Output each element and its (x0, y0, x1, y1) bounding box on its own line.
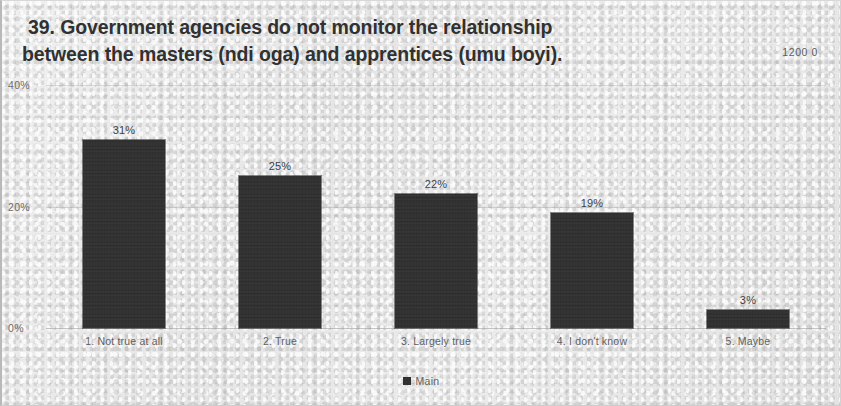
category-label: 1. Not true at all (46, 335, 202, 347)
bar-group: 25% (202, 85, 358, 329)
bar-value-label: 22% (358, 178, 514, 190)
bar-value-label: 3% (670, 294, 826, 306)
bar-group: 31% (46, 85, 202, 329)
corner-note: 1200 0 (782, 46, 818, 58)
legend-label: Main (416, 375, 440, 387)
bar[interactable] (551, 213, 633, 328)
bar[interactable] (395, 194, 477, 328)
category-label: 4. I don't know (514, 335, 670, 347)
bar-group: 3% (670, 85, 826, 329)
chart-container: 39. Government agencies do not monitor t… (0, 0, 841, 406)
bar-group: 22% (358, 85, 514, 329)
bar[interactable] (83, 140, 165, 328)
category-label: 3. Largely true (358, 335, 514, 347)
chart-legend: Main (2, 375, 840, 387)
y-axis-tick-20: 20% (8, 201, 30, 213)
category-label: 2. True (202, 335, 358, 347)
chart-title: 39. Government agencies do not monitor t… (28, 14, 668, 68)
bar[interactable] (239, 176, 321, 328)
chart-title-line-1: 39. Government agencies do not monitor t… (28, 14, 668, 41)
y-axis-tick-0: 0% (8, 322, 24, 334)
bar[interactable] (707, 310, 789, 328)
chart-title-line-2: between the masters (ndi oga) and appren… (22, 41, 668, 68)
bar-value-label: 25% (202, 160, 358, 172)
bar-value-label: 19% (514, 197, 670, 209)
square-marker-icon (403, 377, 411, 385)
category-label: 5. Maybe (670, 335, 826, 347)
bars-layer: 31% 25% 22% 19% 3% (46, 85, 826, 329)
category-axis: 1. Not true at all 2. True 3. Largely tr… (46, 335, 826, 353)
y-axis-tick-40: 40% (8, 79, 30, 91)
bar-group: 19% (514, 85, 670, 329)
bar-value-label: 31% (46, 124, 202, 136)
